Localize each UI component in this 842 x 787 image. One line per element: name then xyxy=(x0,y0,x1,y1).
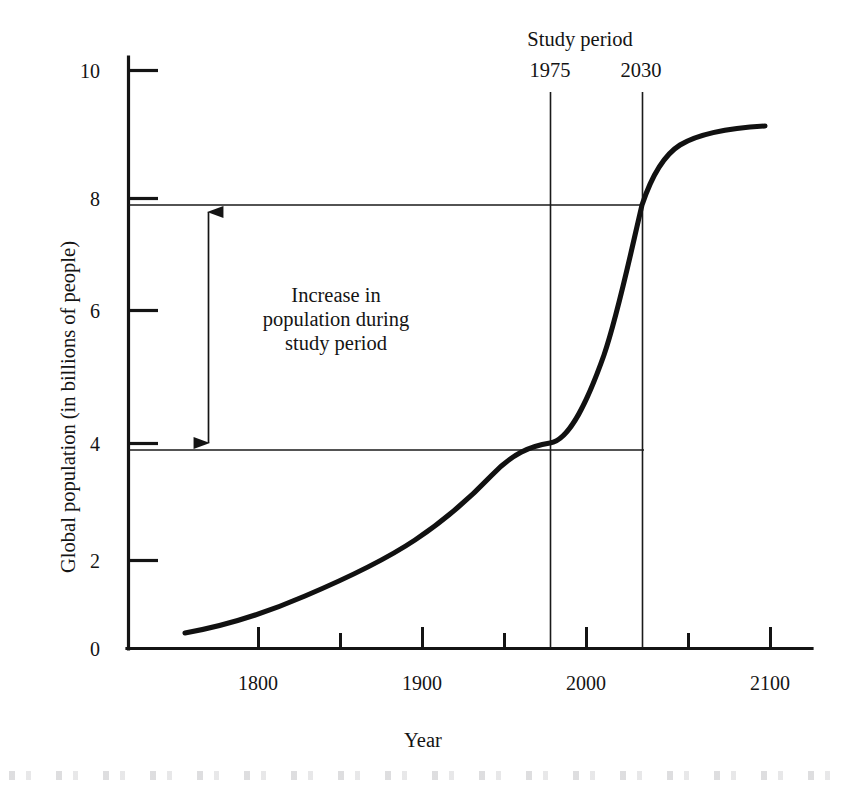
x-axis xyxy=(127,627,812,649)
x-tick-label: 2100 xyxy=(730,672,810,696)
x-tick-label: 1800 xyxy=(218,672,298,696)
study-period-label: Study period xyxy=(485,27,675,51)
increase-annotation: Increase inpopulation duringstudy period xyxy=(226,283,446,356)
y-axis xyxy=(129,57,159,649)
x-tick-label: 1900 xyxy=(382,672,462,696)
increase-annotation-line-2: population during xyxy=(263,308,409,330)
increase-annotation-line-3: study period xyxy=(285,332,387,354)
scan-artifact-strip xyxy=(0,771,842,780)
y-tick-label: 10 xyxy=(60,60,100,84)
x-axis-label: Year xyxy=(378,728,468,752)
increase-annotation-line-1: Increase in xyxy=(291,284,380,306)
chart-canvas xyxy=(0,0,842,787)
study-end-year-label: 2030 xyxy=(603,58,679,82)
population-curve xyxy=(185,126,765,633)
x-tick-label: 2000 xyxy=(546,672,626,696)
chart-figure: 10 8 6 4 2 0 1800 1900 2000 2100 Global … xyxy=(0,0,842,787)
y-axis-label: Global population (in billions of people… xyxy=(56,192,80,622)
y-tick-label: 0 xyxy=(60,638,100,662)
study-start-year-label: 1975 xyxy=(512,58,588,82)
